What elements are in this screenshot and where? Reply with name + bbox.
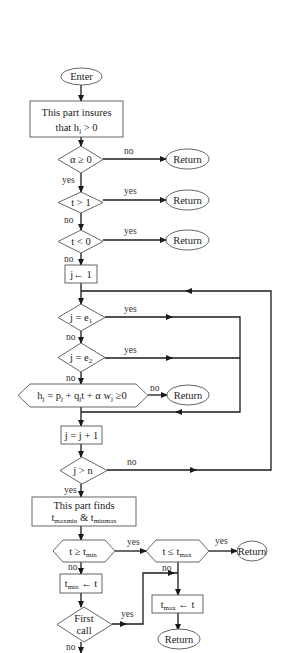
t-lt-0-decision: t < 0 (58, 230, 103, 253)
return-label: Return (174, 390, 203, 401)
j-incr-label: j = j + 1 (64, 430, 98, 441)
label-tmin-no: no (68, 562, 78, 572)
first-call-line1: First (74, 613, 93, 624)
first-call-decision: First call (57, 607, 112, 642)
label-first-yes: yes (121, 609, 134, 619)
label-alpha-yes: yes (62, 175, 75, 185)
h-check-decision: hj = pj + qjt + α wj ≥0 (18, 384, 148, 407)
insure-process-box: This part insures that hj > 0 (30, 101, 123, 137)
label-jn-no: no (127, 457, 137, 467)
edge-jn-loop (81, 291, 271, 470)
finds-process-box: This part finds tmaxmin & tminmax (32, 497, 136, 526)
return-node-3: Return (166, 230, 209, 250)
return-node-2: Return (166, 190, 209, 210)
j-eq-e1-decision: j = e1 (58, 304, 105, 331)
j-gt-n-decision: j > n (60, 457, 107, 484)
alpha-label: α ≥ 0 (70, 154, 92, 165)
label-t0-no: no (64, 254, 74, 264)
label-tmax-yes: yes (215, 536, 228, 546)
flowchart: Enter This part insures that hj > 0 α ≥ … (0, 0, 283, 653)
j-gt-n-label: j > n (72, 465, 93, 476)
enter-node: Enter (61, 68, 102, 85)
tmin-assign-box: tmin ← t (60, 574, 102, 593)
label-alpha-no: no (124, 146, 134, 156)
t-ge-tmin-decision: t ≥ tmin (53, 540, 115, 562)
first-call-line2: call (76, 625, 91, 636)
label-e2-no: no (66, 373, 76, 383)
j-init-label: j← 1 (69, 269, 91, 280)
label-e2-yes: yes (124, 345, 137, 355)
label-e1-yes: yes (124, 304, 137, 314)
label-e1-no: no (66, 332, 76, 342)
return-node-4: Return (167, 385, 209, 405)
j-eq-e2-decision: j = e2 (58, 343, 105, 372)
return-label: Return (173, 154, 202, 165)
j-init-box: j← 1 (65, 265, 97, 283)
finds-line1: This part finds (53, 500, 114, 511)
t-gt-1-label: t > 1 (71, 197, 90, 208)
label-t1-yes: yes (124, 186, 137, 196)
t-le-tmax-decision: t ≤ tmax (146, 540, 209, 562)
label-tmax-no: no (162, 563, 172, 573)
t-lt-0-label: t < 0 (71, 236, 90, 247)
label-first-no: no (66, 642, 76, 652)
label-t1-no: no (64, 215, 74, 225)
return-node-1: Return (166, 149, 209, 169)
enter-label: Enter (70, 71, 93, 82)
alpha-decision: α ≥ 0 (58, 146, 103, 173)
return-label: Return (165, 634, 194, 645)
label-h-no: no (150, 383, 160, 393)
return-node-5: Return (237, 541, 267, 561)
connectors (81, 85, 271, 653)
return-label: Return (173, 235, 202, 246)
j-incr-box: j = j + 1 (61, 426, 102, 444)
return-label: Return (173, 195, 202, 206)
tmax-assign-box: tmax ← t (152, 595, 203, 613)
t-gt-1-decision: t > 1 (58, 192, 103, 213)
insure-line1: This part insures (42, 107, 112, 118)
return-node-6: Return (158, 629, 200, 649)
label-t0-yes: yes (124, 226, 137, 236)
label-tmin-yes: yes (127, 537, 140, 547)
return-label: Return (238, 546, 267, 557)
label-jn-yes: yes (64, 485, 77, 495)
